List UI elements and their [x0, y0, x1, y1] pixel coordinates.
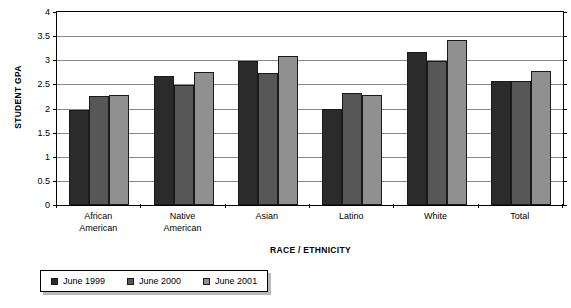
y-axis-tick	[53, 109, 57, 110]
y-axis-tick-right	[563, 205, 567, 206]
y-axis-tick-right	[563, 157, 567, 158]
y-axis-tick	[53, 60, 57, 61]
x-axis-tick	[140, 204, 141, 208]
bar	[238, 61, 258, 205]
x-axis-tick	[225, 204, 226, 208]
bar	[69, 110, 89, 205]
y-axis-tick-label: 1.5	[10, 128, 50, 138]
y-axis-tick-right	[563, 109, 567, 110]
y-axis-tick-right	[563, 181, 567, 182]
legend-item[interactable]: June 2001	[203, 276, 257, 286]
bar	[427, 61, 447, 205]
y-axis-tick-label: 3.5	[10, 31, 50, 41]
x-axis-tick	[56, 204, 57, 208]
x-axis-category-label: Asian	[225, 210, 309, 222]
chart-legend: June 1999June 2000June 2001	[40, 270, 268, 292]
bar	[531, 71, 551, 205]
gridline	[57, 36, 563, 37]
bar	[154, 76, 174, 205]
y-axis-tick	[53, 12, 57, 13]
bar-group	[154, 12, 214, 205]
legend-item[interactable]: June 1999	[51, 276, 105, 286]
x-axis-category-label: Latino	[309, 210, 393, 222]
x-axis-tick	[478, 204, 479, 208]
bar	[109, 95, 129, 205]
bar-group	[491, 12, 551, 205]
bar	[491, 81, 511, 205]
x-axis-category-label: African American	[56, 210, 140, 234]
gridline	[57, 60, 563, 61]
legend-label: June 2000	[139, 276, 181, 286]
bar	[174, 85, 194, 205]
legend-label: June 1999	[63, 276, 105, 286]
bar	[511, 81, 531, 205]
legend-item[interactable]: June 2000	[127, 276, 181, 286]
legend-swatch-icon	[203, 278, 210, 285]
x-axis-category-label: Native American	[140, 210, 224, 234]
y-axis-tick-label: 2.5	[10, 79, 50, 89]
y-axis-tick	[53, 133, 57, 134]
legend-swatch-icon	[127, 278, 134, 285]
y-axis-tick	[53, 181, 57, 182]
bar-group	[238, 12, 298, 205]
y-axis-tick-label: 0.5	[10, 176, 50, 186]
plot-area: 00.511.522.533.54	[56, 11, 564, 206]
x-axis-category-label: White	[393, 210, 477, 222]
y-axis-tick-label: 0	[10, 200, 50, 210]
x-axis-title: RACE / ETHNICITY	[0, 245, 571, 255]
bar-group	[407, 12, 467, 205]
gridline	[57, 109, 563, 110]
legend-label: June 2001	[215, 276, 257, 286]
y-axis-tick-label: 2	[10, 104, 50, 114]
bar	[407, 52, 427, 205]
x-axis-tick	[393, 204, 394, 208]
bar	[194, 72, 214, 205]
bar	[362, 95, 382, 205]
y-axis-tick-right	[563, 84, 567, 85]
y-axis-tick-right	[563, 133, 567, 134]
gridline	[57, 157, 563, 158]
bar	[342, 93, 362, 205]
x-axis-tick	[562, 204, 563, 208]
x-axis-tick	[309, 204, 310, 208]
bar-group	[322, 12, 382, 205]
bar-chart: STUDENT GPA 00.511.522.533.54 African Am…	[0, 0, 571, 308]
gridline	[57, 181, 563, 182]
y-axis-tick-label: 1	[10, 152, 50, 162]
bar	[258, 73, 278, 205]
y-axis-tick-right	[563, 12, 567, 13]
y-axis-tick	[53, 36, 57, 37]
bar	[447, 40, 467, 205]
gridline	[57, 133, 563, 134]
y-axis-tick-label: 3	[10, 55, 50, 65]
y-axis-tick	[53, 84, 57, 85]
bar-group	[69, 12, 129, 205]
x-axis-category-label: Total	[478, 210, 562, 222]
y-axis-tick-right	[563, 36, 567, 37]
gridline	[57, 84, 563, 85]
bar	[322, 109, 342, 205]
y-axis-tick-label: 4	[10, 7, 50, 17]
y-axis-tick-right	[563, 60, 567, 61]
legend-swatch-icon	[51, 278, 58, 285]
bar	[278, 56, 298, 205]
bar	[89, 96, 109, 205]
y-axis-tick	[53, 157, 57, 158]
